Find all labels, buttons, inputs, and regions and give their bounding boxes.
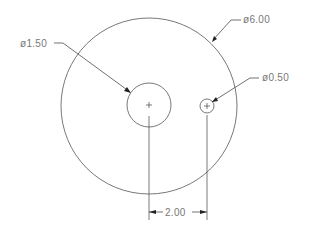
small-hole-diameter-label: ø0.50 bbox=[262, 72, 289, 83]
center-mark-icon bbox=[146, 102, 152, 108]
arrowhead-icon bbox=[124, 87, 131, 93]
arrowhead-icon bbox=[200, 210, 207, 214]
arrowhead-icon bbox=[149, 210, 156, 214]
center-mark-icon bbox=[204, 103, 210, 109]
outer-diameter-label: ø6.00 bbox=[243, 14, 270, 25]
center-hole-diameter-label: ø1.50 bbox=[20, 38, 47, 49]
outer-diameter-leader bbox=[212, 20, 241, 42]
arrowhead-icon bbox=[212, 97, 218, 102]
center-hole-diameter-leader bbox=[54, 43, 131, 93]
hole-spacing-label: 2.00 bbox=[165, 207, 186, 218]
cad-drawing: ø6.00 ø1.50 ø0.50 2.00 bbox=[0, 0, 334, 233]
